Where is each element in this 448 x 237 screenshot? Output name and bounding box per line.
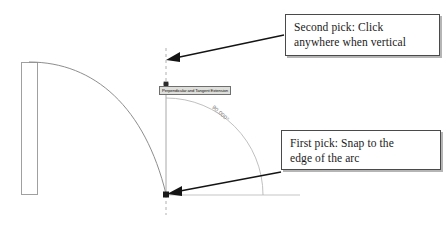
callout-second-pick: Second pick: Click anywhere when vertica…: [285, 14, 440, 56]
callout-first-pick-line2: edge of the arc: [290, 151, 433, 166]
construction-vertical-line: [163, 84, 169, 195]
osnap-tooltip: Perpendicular and Tangent Extension: [159, 86, 231, 95]
callout-second-pick-line1: Second pick: Click: [294, 20, 432, 35]
second-pick-leader-arrow: [166, 35, 284, 62]
cad-illustration-canvas: Perpendicular and Tangent Extension 90.0…: [0, 0, 448, 237]
wall-rectangle: [22, 63, 38, 195]
callout-second-pick-line2: anywhere when vertical: [294, 35, 432, 50]
first-pick-leader-arrow: [167, 172, 281, 196]
angle-indicator-arc: [166, 98, 263, 195]
main-arc: [29, 62, 166, 194]
callout-first-pick-line1: First pick: Snap to the: [290, 136, 433, 151]
first-pick-marker: [163, 192, 169, 198]
callout-first-pick: First pick: Snap to the edge of the arc: [281, 130, 441, 170]
